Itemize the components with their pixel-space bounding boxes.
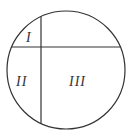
outer-circle (7, 11, 125, 129)
circle-partition-diagram: I II III (0, 0, 130, 137)
region-label-ii: II (15, 74, 28, 89)
region-label-iii: III (68, 74, 86, 89)
region-label-i: I (25, 30, 32, 45)
diagram-canvas: I II III (0, 0, 130, 137)
